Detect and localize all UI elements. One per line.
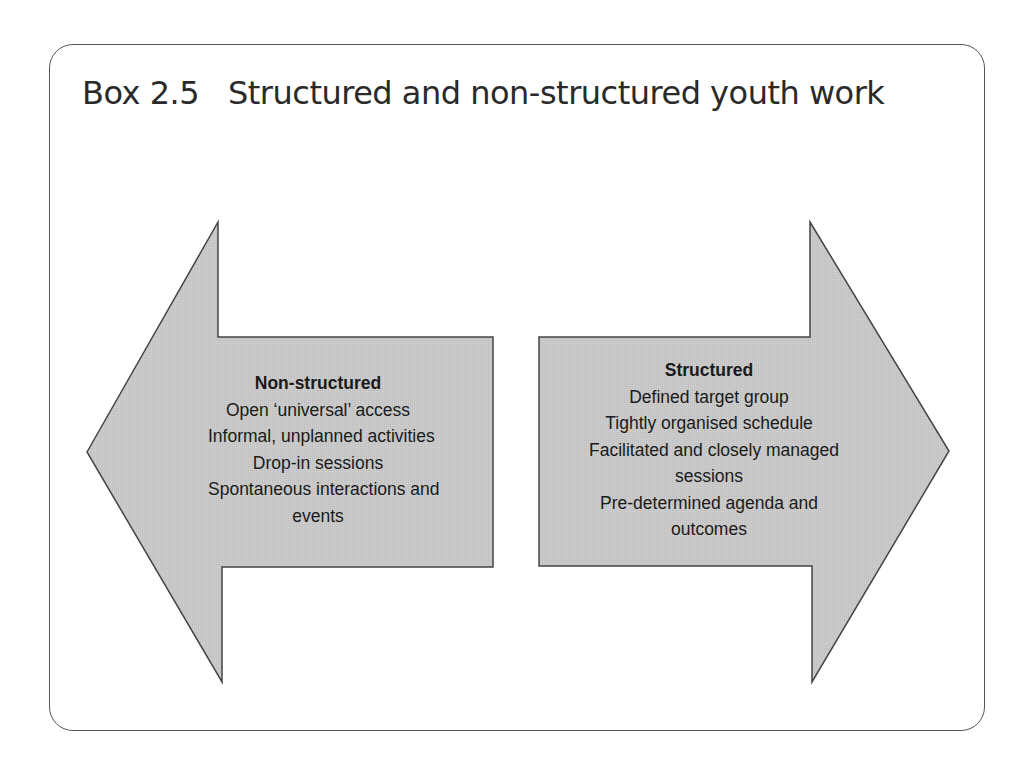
structured-item: Pre-determined agenda and xyxy=(589,490,829,517)
structured-item: sessions xyxy=(589,463,829,490)
arrows-diagram xyxy=(0,0,1033,774)
structured-item: Defined target group xyxy=(589,384,829,411)
non-structured-item: Informal, unplanned activities xyxy=(208,423,428,450)
structured-label: Structured Defined target group Tightly … xyxy=(589,357,829,543)
non-structured-label: Non-structured Open ‘universal’ access I… xyxy=(208,370,428,529)
non-structured-item: events xyxy=(208,503,428,530)
structured-item: Tightly organised schedule xyxy=(589,410,829,437)
structured-heading: Structured xyxy=(589,357,829,384)
non-structured-heading: Non-structured xyxy=(208,370,428,397)
structured-item: Facilitated and closely managed xyxy=(589,437,829,464)
non-structured-item: Drop-in sessions xyxy=(208,450,428,477)
non-structured-item: Open ‘universal’ access xyxy=(208,397,428,424)
structured-item: outcomes xyxy=(589,516,829,543)
non-structured-item: Spontaneous interactions and xyxy=(208,476,428,503)
